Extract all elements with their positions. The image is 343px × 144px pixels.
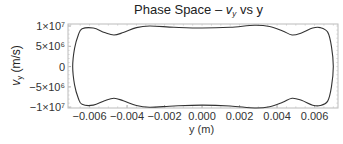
x-axis-title: y (m) bbox=[189, 123, 214, 135]
y-tick-label: 0 bbox=[59, 61, 65, 73]
plot-frame bbox=[68, 24, 338, 108]
x-tick-label: −0.002 bbox=[148, 110, 182, 122]
plot-area: 1×10⁷5×10⁶0−5×10⁶−1×10⁷ −0.006−0.004−0.0… bbox=[0, 0, 343, 144]
y-axis-ticks: 1×10⁷5×10⁶0−5×10⁶−1×10⁷ bbox=[29, 20, 338, 113]
phase-space-curve bbox=[73, 25, 334, 108]
y-axis-title: vy (m/s) bbox=[9, 36, 24, 96]
y-tick-label: 5×10⁶ bbox=[36, 40, 65, 52]
y-tick-label: −5×10⁶ bbox=[29, 81, 65, 93]
x-axis-ticks: −0.006−0.004−0.0020.0000.0020.0040.006 bbox=[71, 24, 334, 122]
x-tick-label: 0.006 bbox=[301, 110, 329, 122]
x-tick-label: 0.002 bbox=[226, 110, 254, 122]
y-axis-title-subscript: y bbox=[15, 76, 24, 80]
y-tick-label: 1×10⁷ bbox=[36, 20, 65, 32]
y-axis-title-variable: v bbox=[9, 80, 23, 86]
x-tick-label: 0.000 bbox=[188, 110, 216, 122]
x-tick-label: 0.004 bbox=[263, 110, 291, 122]
x-tick-label: −0.004 bbox=[110, 110, 144, 122]
y-axis-title-unit: (m/s) bbox=[9, 45, 23, 76]
y-tick-label: −1×10⁷ bbox=[30, 101, 65, 113]
x-tick-label: −0.006 bbox=[73, 110, 107, 122]
